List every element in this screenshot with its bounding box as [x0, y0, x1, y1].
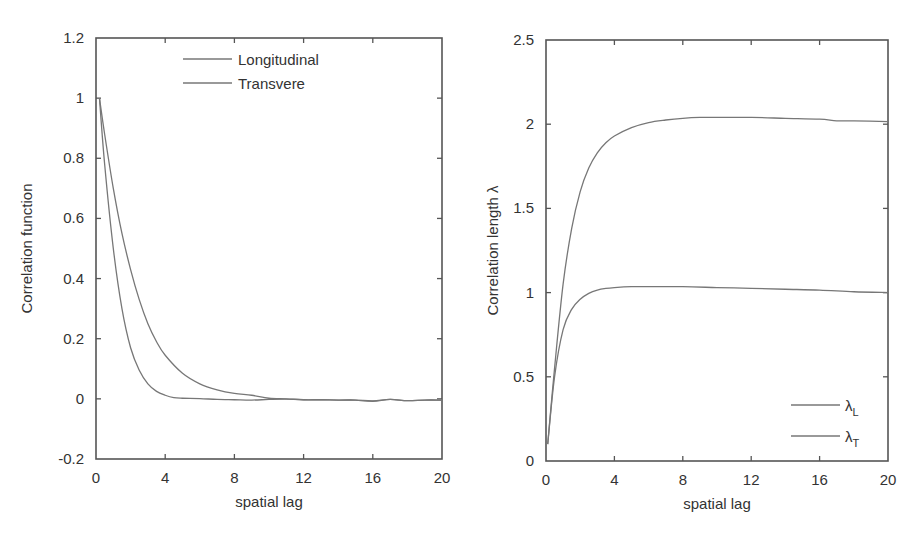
correlation-length-chart: 04812162000.511.522.5spatial lagCorrelat…: [484, 31, 896, 512]
x-tick-label: 0: [92, 469, 100, 486]
x-tick-label: 16: [811, 471, 828, 488]
y-tick-label: 1.5: [513, 199, 534, 216]
x-tick-label: 20: [434, 469, 451, 486]
y-tick-label: 0.4: [63, 270, 84, 287]
series-line-longitudinal: [99, 98, 442, 401]
y-tick-label: 1: [76, 89, 84, 106]
series-line-λl: [548, 117, 888, 444]
x-tick-label: 8: [230, 469, 238, 486]
x-axis-label: spatial lag: [235, 493, 303, 510]
x-tick-label: 12: [743, 471, 760, 488]
x-tick-label: 16: [364, 469, 381, 486]
x-tick-label: 4: [161, 469, 169, 486]
x-tick-label: 20: [880, 471, 897, 488]
y-tick-label: 0.2: [63, 330, 84, 347]
x-tick-label: 8: [679, 471, 687, 488]
y-tick-label: 0.6: [63, 209, 84, 226]
y-tick-label: 0.8: [63, 149, 84, 166]
legend-label: λL: [845, 397, 859, 418]
y-tick-label: 1.2: [63, 29, 84, 46]
x-tick-label: 4: [610, 471, 618, 488]
correlation-function-chart: 048121620-0.200.20.40.60.811.2spatial la…: [18, 29, 450, 510]
x-axis-label: spatial lag: [683, 495, 751, 512]
y-tick-label: 0.5: [513, 368, 534, 385]
y-tick-label: 0: [526, 452, 534, 469]
legend-label: Transvere: [238, 75, 305, 92]
series-line-transvere: [99, 98, 442, 401]
y-axis-label: Correlation function: [18, 183, 35, 313]
y-tick-label: 0: [76, 390, 84, 407]
x-tick-label: 12: [295, 469, 312, 486]
figure: 048121620-0.200.20.40.60.811.2spatial la…: [0, 0, 924, 546]
plot-frame: [546, 40, 888, 461]
y-tick-label: -0.2: [58, 450, 84, 467]
y-tick-label: 1: [526, 284, 534, 301]
y-axis-label: Correlation length λ: [484, 185, 501, 316]
y-tick-label: 2: [526, 115, 534, 132]
x-tick-label: 0: [542, 471, 550, 488]
legend-label: λT: [845, 428, 860, 449]
series-line-λt: [548, 287, 888, 445]
y-tick-label: 2.5: [513, 31, 534, 48]
legend-label: Longitudinal: [238, 51, 319, 68]
plot-frame: [96, 38, 442, 459]
